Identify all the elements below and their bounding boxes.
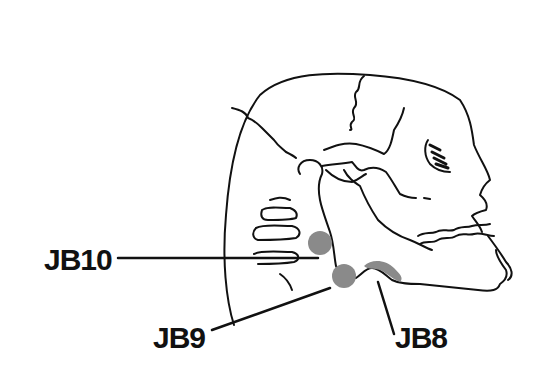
vertebra-2 [253, 226, 299, 241]
lambdoid-suture [232, 108, 296, 158]
skull-diagram [0, 0, 548, 388]
ramus-anterior [344, 170, 432, 250]
point-jb8 [364, 261, 402, 282]
spine-edge [270, 198, 290, 200]
zygomatic-arch [322, 162, 416, 198]
nasal-line [424, 198, 430, 199]
label-jb8: JB8 [395, 323, 447, 353]
lower-teeth [420, 233, 494, 244]
vertebra-1 [261, 208, 297, 221]
temporal-line [324, 108, 404, 154]
orbit-shading [430, 145, 448, 168]
vertebra-4 [280, 274, 292, 290]
point-jb9 [332, 264, 356, 288]
point-jb10 [308, 231, 332, 255]
label-jb9: JB9 [153, 323, 205, 353]
label-jb10: JB10 [44, 245, 112, 275]
mandible-body [488, 236, 512, 280]
coronal-suture [350, 76, 364, 130]
leader-jb8 [378, 282, 394, 334]
acupoints [308, 231, 402, 288]
